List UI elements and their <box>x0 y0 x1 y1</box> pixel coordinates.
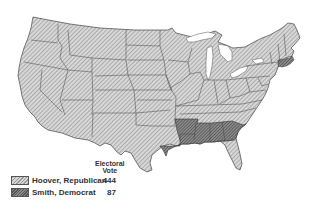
legend-header: Electoral Vote <box>95 160 125 174</box>
legend-votes: 444 <box>100 176 116 185</box>
hoover-swatch-icon <box>11 176 29 185</box>
legend-header-vote: Vote <box>95 167 125 174</box>
us-mainland <box>18 17 300 172</box>
legend-header-electoral: Electoral <box>95 160 125 167</box>
legend-label: Hoover, Republican <box>32 176 100 185</box>
legend-entry-hoover: Hoover, Republican 444 <box>11 176 116 185</box>
smith-swatch-icon <box>11 188 29 197</box>
legend-label: Smith, Democrat <box>32 188 100 197</box>
legend-entry-smith: Smith, Democrat 87 <box>11 188 116 197</box>
legend-votes: 87 <box>100 188 116 197</box>
